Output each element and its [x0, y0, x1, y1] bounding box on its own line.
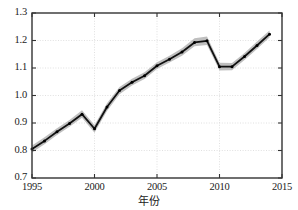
y-axis-tick-label: 0.8	[0, 144, 27, 155]
line-chart-plot	[0, 0, 298, 210]
y-axis-tick-label: 0.9	[0, 116, 27, 127]
y-axis-tick-label: 1.2	[0, 34, 27, 45]
y-axis-tick-label: 1.3	[0, 6, 27, 17]
x-axis-tick-label: 2015	[262, 181, 298, 192]
chart-container: 0.70.80.91.01.11.21.3 199520002005201020…	[0, 0, 298, 210]
x-axis-tick-label: 2000	[75, 181, 115, 192]
x-axis-label: 年份	[0, 192, 298, 208]
x-axis-tick-label: 2005	[137, 181, 177, 192]
x-axis-tick-label: 1995	[12, 181, 52, 192]
x-axis-tick-label: 2010	[200, 181, 240, 192]
y-axis-tick-label: 1.0	[0, 89, 27, 100]
y-axis-tick-label: 1.1	[0, 61, 27, 72]
